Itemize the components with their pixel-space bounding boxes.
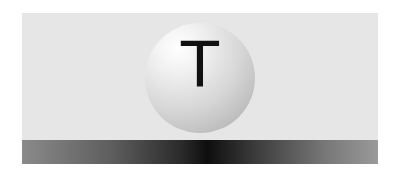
sphere-letter: T bbox=[145, 30, 255, 100]
dark-gradient-bar bbox=[22, 140, 378, 164]
